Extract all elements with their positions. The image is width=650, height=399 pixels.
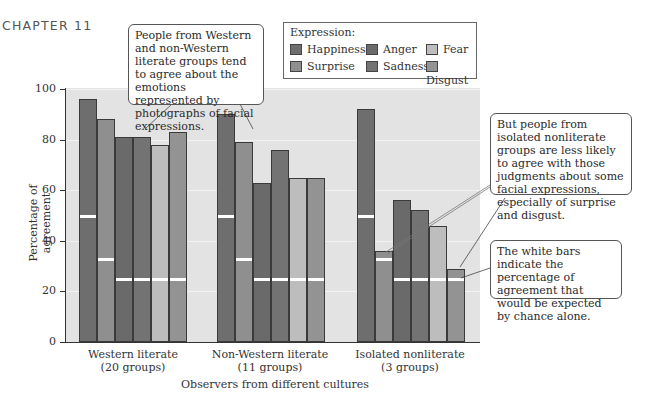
callout-chance-bars: The white bars indicate the percentage o… [490, 240, 622, 299]
callout-isolated-disagreement: But people from isolated nonliterate gro… [490, 113, 632, 195]
callout-literate-agreement: People from Western and non-Western lite… [128, 24, 264, 105]
